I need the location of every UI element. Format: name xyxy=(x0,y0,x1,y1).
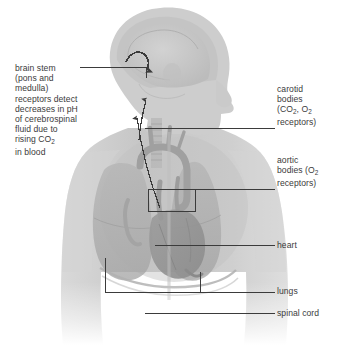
carotid-co2-pre: (CO xyxy=(277,104,293,114)
label-carotid-bodies: carotid bodies (CO2, O2 receptors) xyxy=(277,84,316,127)
label-aortic-bodies: aortic bodies (O2 receptors) xyxy=(277,155,318,188)
carotid-o2-pre: , O xyxy=(297,104,309,114)
aortic-line-3: receptors) xyxy=(277,178,316,188)
aortic-o2-subscript: 2 xyxy=(315,169,319,176)
brain-stem-line-7: fluid due to xyxy=(15,124,58,134)
brain-stem-line-1: brain stem xyxy=(15,63,56,73)
brain-stem-co2-subscript: 2 xyxy=(51,138,55,145)
aortic-line-1: aortic xyxy=(277,155,298,165)
aortic-o2-pre: bodies (O xyxy=(277,165,315,175)
label-spinal-cord: spinal cord xyxy=(277,308,319,318)
brain-stem-line-5: decreases in pH xyxy=(15,104,78,114)
label-lungs: lungs xyxy=(277,286,298,296)
carotid-line-2: bodies xyxy=(277,94,303,104)
brain-stem-line-3: medulla) xyxy=(15,83,48,93)
carotid-line-4: receptors) xyxy=(277,117,316,127)
label-brain-stem: brain stem (pons and medulla) receptors … xyxy=(15,63,78,157)
brain-stem-line-8: rising CO xyxy=(15,134,51,144)
brain-stem-line-4: receptors detect xyxy=(15,94,77,104)
carotid-o2-subscript: 2 xyxy=(308,108,312,115)
brain-stem-line-9: in blood xyxy=(15,147,46,157)
label-heart: heart xyxy=(277,240,297,250)
carotid-line-1: carotid xyxy=(277,84,303,94)
brain-stem-line-2: (pons and xyxy=(15,73,54,83)
brain-stem-line-6: of cerebrospinal xyxy=(15,114,77,124)
